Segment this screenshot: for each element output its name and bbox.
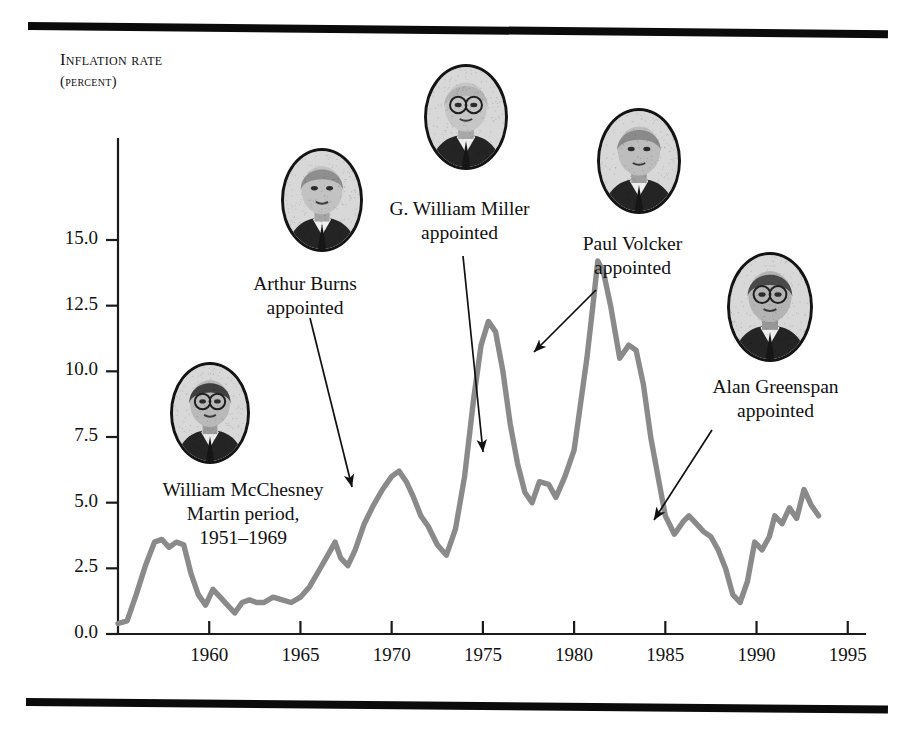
annotation-miller: G. William Miller appointed	[352, 197, 567, 245]
annotation-miller-line1: G. William Miller	[352, 197, 567, 221]
y-tick-label: 12.5	[40, 293, 98, 315]
annotation-volcker: Paul Volcker appointed	[545, 232, 720, 280]
x-tick-label: 1970	[357, 644, 427, 666]
portrait-martin	[170, 362, 250, 464]
x-tick-label: 1975	[448, 644, 518, 666]
y-tick-label: 5.0	[40, 490, 98, 512]
annotation-martin-line2: Martin period,	[118, 502, 368, 526]
annotation-burns-line1: Arthur Burns	[210, 272, 400, 296]
portrait-miller	[424, 64, 508, 170]
arrow-greenspan	[654, 430, 712, 520]
portrait-image	[284, 151, 360, 249]
annotation-greenspan-line1: Alan Greenspan	[668, 375, 883, 399]
y-tick-label: 0.0	[40, 621, 98, 643]
arrow-burns	[310, 318, 352, 487]
y-tick-label: 2.5	[40, 555, 98, 577]
y-tick-marks	[106, 240, 118, 634]
annotation-martin-line3: 1951–1969	[118, 526, 368, 550]
annotation-greenspan-line2: appointed	[668, 399, 883, 423]
portrait-image	[600, 111, 678, 211]
y-tick-label: 10.0	[40, 358, 98, 380]
x-tick-label: 1965	[265, 644, 335, 666]
annotation-martin-line1: William McChesney	[118, 478, 368, 502]
x-tick-marks	[209, 621, 848, 634]
annotation-burns: Arthur Burns appointed	[210, 272, 400, 320]
x-tick-label: 1980	[539, 644, 609, 666]
annotation-greenspan: Alan Greenspan appointed	[668, 375, 883, 423]
portrait-volcker	[597, 108, 681, 214]
annotation-burns-line2: appointed	[210, 296, 400, 320]
portrait-greenspan	[727, 252, 813, 362]
portrait-image	[427, 67, 505, 167]
inflation-rate-chart-figure: Inflation rate (percent) 0.02.55.07.510.…	[0, 0, 911, 736]
annotation-miller-line2: appointed	[352, 221, 567, 245]
annotation-martin: William McChesney Martin period, 1951–19…	[118, 478, 368, 549]
portrait-burns	[281, 148, 363, 252]
x-tick-label: 1960	[174, 644, 244, 666]
annotation-volcker-line1: Paul Volcker	[545, 232, 720, 256]
annotation-volcker-line2: appointed	[545, 256, 720, 280]
x-tick-label: 1990	[722, 644, 792, 666]
y-tick-label: 7.5	[40, 424, 98, 446]
y-tick-label: 15.0	[40, 227, 98, 249]
portrait-image	[173, 365, 247, 461]
portrait-image	[730, 255, 810, 359]
x-tick-label: 1995	[813, 644, 883, 666]
x-tick-label: 1985	[630, 644, 700, 666]
